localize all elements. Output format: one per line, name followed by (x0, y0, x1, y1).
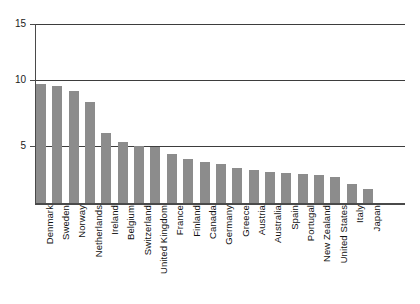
bar-rect (363, 189, 373, 203)
bar-rect (298, 174, 308, 203)
bar-rect (69, 91, 79, 203)
clipped-title-remnant (60, 0, 310, 4)
y-tick-label-15: 15 (2, 19, 26, 29)
category-label-japan: Japan (372, 205, 382, 231)
bar-rect (134, 146, 144, 203)
category-label-greece: Greece (241, 205, 251, 237)
category-label-finland: Finland (192, 205, 202, 237)
bar-chart: 15 10 5 DenmarkSwedenNorwayNetherlandsIr… (0, 0, 420, 304)
category-label-australia: Australia (273, 205, 283, 243)
category-label-portugal: Portugal (306, 205, 316, 241)
category-label-spain: Spain (290, 205, 300, 230)
bar-rect (249, 170, 259, 203)
category-label-united-states: United States (339, 205, 349, 263)
bar-rect (85, 102, 95, 203)
bar-rect (150, 147, 160, 203)
bar-rect (347, 184, 357, 203)
category-label-netherlands: Netherlands (94, 205, 104, 257)
bar-rect (265, 172, 275, 203)
category-label-canada: Canada (208, 205, 218, 239)
bar-rect (118, 142, 128, 203)
bar-rect (101, 133, 111, 203)
category-label-belgium: Belgium (126, 205, 136, 240)
y-tick-label-5: 5 (2, 141, 26, 151)
bar-rect (330, 177, 340, 203)
x-axis-category-labels: DenmarkSwedenNorwayNetherlandsIrelandBel… (36, 205, 405, 304)
bar-rect (167, 154, 177, 203)
category-label-ireland: Ireland (110, 205, 120, 235)
bar-rect (183, 159, 193, 203)
category-label-austria: Austria (257, 205, 267, 235)
bar-rect (52, 86, 62, 203)
category-label-denmark: Denmark (45, 205, 55, 244)
category-label-united-kingdom: United Kingdom (159, 205, 169, 274)
bar-rect (216, 164, 226, 203)
bar-rect (281, 173, 291, 203)
category-label-norway: Norway (77, 205, 87, 238)
category-label-switzerland: Switzerland (143, 205, 153, 255)
category-label-sweden: Sweden (61, 205, 71, 240)
category-label-germany: Germany (224, 205, 234, 245)
category-label-france: France (175, 205, 185, 235)
y-tick-label-10: 10 (2, 75, 26, 85)
category-label-new-zealand: New Zealand (322, 205, 332, 262)
bar-rect (232, 168, 242, 203)
bar-rect (314, 175, 324, 203)
bar-rect (200, 162, 210, 203)
bar-rect (36, 84, 46, 203)
category-label-italy: Italy (355, 205, 365, 223)
bar-series (36, 24, 405, 203)
